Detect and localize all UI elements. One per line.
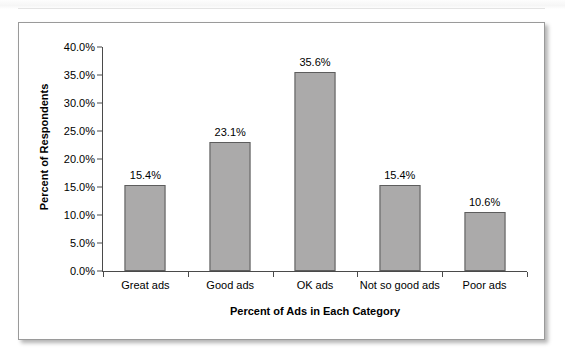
- x-axis-category-label: Poor ads: [463, 279, 507, 291]
- y-axis-tick-label: 25.0%: [64, 125, 95, 137]
- bar-slot: 10.6%: [442, 47, 527, 271]
- x-axis-tick-mark: [103, 272, 104, 277]
- y-axis-tick-mark: [97, 159, 102, 160]
- x-axis-category-label: Not so good ads: [360, 279, 440, 291]
- bar-slot: 15.4%: [357, 47, 442, 271]
- bar-great-ads[interactable]: [125, 185, 166, 271]
- y-axis-tick-label: 15.0%: [64, 181, 95, 193]
- x-axis-category-labels: Great adsGood adsOK adsNot so good adsPo…: [103, 279, 527, 297]
- bar-not-so-good-ads[interactable]: [379, 185, 420, 271]
- x-axis-tick-mark: [188, 272, 189, 277]
- x-axis-category-label: OK ads: [297, 279, 334, 291]
- bar-value-label: 35.6%: [299, 56, 330, 68]
- x-axis-tick-mark: [273, 272, 274, 277]
- y-axis-tick-labels: 0.0%5.0%10.0%15.0%20.0%25.0%30.0%35.0%40…: [53, 47, 95, 271]
- y-axis-tick-mark: [97, 187, 102, 188]
- y-axis-tick-mark: [97, 271, 102, 272]
- y-axis-tick-label: 0.0%: [70, 265, 95, 277]
- y-axis-tick-mark: [97, 103, 102, 104]
- top-horizontal-rule: [18, 8, 545, 9]
- y-axis-tick-mark: [97, 75, 102, 76]
- y-axis-tick-label: 20.0%: [64, 153, 95, 165]
- bar-value-label: 23.1%: [215, 126, 246, 138]
- y-axis-tick-mark: [97, 215, 102, 216]
- y-axis-tick-label: 5.0%: [70, 237, 95, 249]
- bars-plot-area: 15.4%23.1%35.6%15.4%10.6%: [103, 47, 527, 271]
- x-axis-category-label: Good ads: [206, 279, 254, 291]
- x-axis-title: Percent of Ads in Each Category: [103, 305, 527, 317]
- x-axis-tick-mark: [527, 272, 528, 277]
- y-axis-tick-label: 30.0%: [64, 97, 95, 109]
- bar-slot: 35.6%: [273, 47, 358, 271]
- x-axis-category-label: Great ads: [121, 279, 169, 291]
- chart-plot-wrapper: Percent of Respondents 0.0%5.0%10.0%15.0…: [19, 23, 546, 341]
- y-axis-tick-label: 35.0%: [64, 69, 95, 81]
- bar-poor-ads[interactable]: [464, 212, 505, 271]
- y-axis-tick-label: 10.0%: [64, 209, 95, 221]
- bar-value-label: 15.4%: [130, 169, 161, 181]
- bar-ok-ads[interactable]: [294, 72, 335, 271]
- bar-good-ads[interactable]: [210, 142, 251, 271]
- bar-value-label: 15.4%: [384, 169, 415, 181]
- x-axis-line: [102, 271, 527, 272]
- chart-figure-frame: Percent of Respondents 0.0%5.0%10.0%15.0…: [18, 22, 545, 340]
- bar-value-label: 10.6%: [469, 196, 500, 208]
- y-axis-tick-label: 40.0%: [64, 41, 95, 53]
- bar-slot: 23.1%: [188, 47, 273, 271]
- y-axis-tick-mark: [97, 47, 102, 48]
- x-axis-tick-mark: [442, 272, 443, 277]
- y-axis-title: Percent of Respondents: [38, 62, 50, 232]
- y-axis-tick-mark: [97, 243, 102, 244]
- bar-slot: 15.4%: [103, 47, 188, 271]
- y-axis-tick-mark: [97, 131, 102, 132]
- x-axis-tick-mark: [357, 272, 358, 277]
